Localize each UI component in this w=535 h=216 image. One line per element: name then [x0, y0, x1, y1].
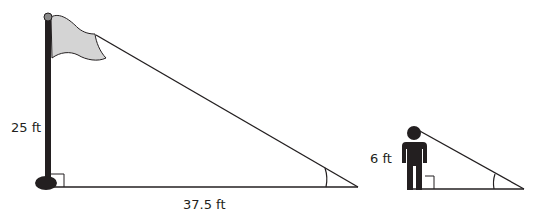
angle-arc [325, 168, 327, 187]
flag-cloth [51, 15, 106, 60]
flagpole-hypotenuse [96, 35, 358, 187]
person-height-label: 6 ft [370, 151, 392, 166]
flagpole-height-label: 25 ft [11, 120, 41, 135]
right-angle-marker [425, 176, 434, 189]
flag-pole [45, 18, 51, 184]
person-body [402, 142, 427, 190]
pole-top-ball [44, 13, 52, 21]
person-head [407, 126, 421, 140]
flag-icon [35, 13, 106, 190]
shadow-diagram: 25 ft 37.5 ft 6 ft [0, 0, 535, 216]
angle-arc [493, 174, 495, 189]
pole-base [35, 176, 57, 190]
shadow-length-label: 37.5 ft [183, 197, 226, 212]
person-icon [402, 126, 427, 190]
